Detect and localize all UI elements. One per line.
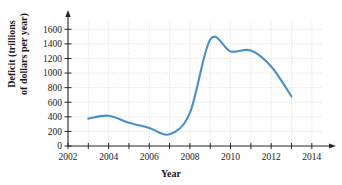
y-axis-title-line2: of dollars per year): [18, 0, 30, 109]
x-tick-label: 2006: [140, 152, 159, 162]
y-tick-label: 600: [48, 98, 63, 108]
x-tick-label: 2014: [302, 152, 321, 162]
deficit-line-chart: 02004006008001000120014001600 2002200420…: [0, 0, 342, 185]
x-tick-labels: 2002200420062008201020122014: [59, 152, 322, 162]
y-tick-label: 1200: [43, 54, 62, 64]
y-tick-label: 200: [48, 127, 63, 137]
y-tick-label: 400: [48, 112, 63, 122]
y-tick-label: 0: [57, 141, 62, 151]
x-tick-label: 2012: [262, 152, 281, 162]
x-tick-label: 2004: [99, 152, 118, 162]
axis-lines: [65, 10, 336, 149]
y-tick-labels: 02004006008001000120014001600: [43, 25, 62, 152]
axis-ticks: [65, 29, 312, 149]
y-tick-label: 1600: [43, 25, 62, 35]
y-tick-label: 1000: [43, 68, 62, 78]
y-axis-title: Deficit (trillions of dollars per year): [6, 0, 32, 109]
y-tick-label: 1400: [43, 39, 62, 49]
x-tick-label: 2010: [221, 152, 240, 162]
x-axis-title: Year: [0, 168, 342, 179]
x-tick-label: 2002: [59, 152, 78, 162]
chart-canvas: 02004006008001000120014001600 2002200420…: [0, 0, 342, 185]
x-tick-label: 2008: [180, 152, 199, 162]
y-axis-title-line1: Deficit (trillions: [6, 0, 18, 109]
y-tick-label: 800: [48, 83, 63, 93]
